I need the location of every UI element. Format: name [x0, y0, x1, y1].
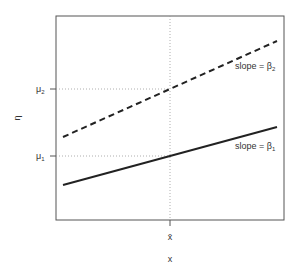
slope1-annotation: slope = β1 [235, 141, 276, 152]
plot-canvas: μ2 μ1 x̄ x η slope = β2 slope = β1 [0, 0, 298, 274]
y-tick-label-mu1: μ1 [36, 151, 45, 162]
y-tick-label-mu2: μ2 [36, 84, 45, 95]
x-tick-label-xbar: x̄ [168, 232, 173, 242]
x-axis-title: x [168, 254, 173, 264]
slope2-annotation: slope = β2 [235, 61, 276, 72]
y-axis-title: η [12, 115, 22, 120]
